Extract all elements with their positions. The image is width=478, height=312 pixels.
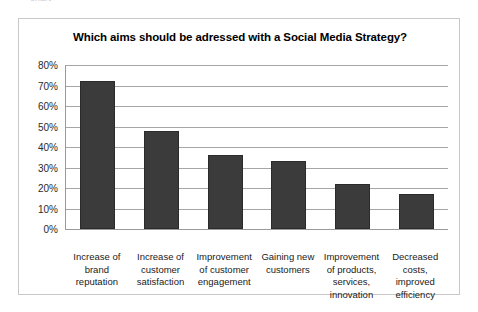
x-axis-category-label: Decreased costs, improved efficiency xyxy=(383,251,447,301)
y-axis-tick: 60% xyxy=(38,101,58,112)
gridline xyxy=(66,229,448,230)
y-axis-tick: 40% xyxy=(38,142,58,153)
y-axis-tick-labels: 80%70%60%50%40%30%20%10%0% xyxy=(19,65,61,229)
chart-screenshot: chart Which aims should be adressed with… xyxy=(0,0,478,312)
y-axis-tick: 80% xyxy=(38,60,58,71)
y-axis-tick: 30% xyxy=(38,162,58,173)
bar[interactable] xyxy=(335,184,370,229)
x-axis-category-label: Improvement of customer engagement xyxy=(192,251,256,301)
x-axis-category-label: Increase of customer satisfaction xyxy=(129,251,193,301)
y-axis-tick: 20% xyxy=(38,183,58,194)
chart-title: Which aims should be adressed with a Soc… xyxy=(19,31,461,43)
plot-wrapper: 80%70%60%50%40%30%20%10%0% xyxy=(19,65,461,247)
y-axis-tick: 10% xyxy=(38,203,58,214)
y-axis-tick: 70% xyxy=(38,80,58,91)
bar[interactable] xyxy=(208,155,243,229)
bar-series xyxy=(66,65,448,229)
bar-slot xyxy=(66,65,130,229)
bar[interactable] xyxy=(399,194,434,229)
bar-slot xyxy=(130,65,194,229)
clipped-caption-label: chart xyxy=(0,0,51,4)
y-axis-tick: 50% xyxy=(38,121,58,132)
x-axis-category-labels: Increase of brand reputationIncrease of … xyxy=(65,251,447,301)
x-axis-category-label: Increase of brand reputation xyxy=(65,251,129,301)
bar[interactable] xyxy=(271,161,306,229)
x-axis-category-label: Improvement of products, services, innov… xyxy=(320,251,384,301)
bar-slot xyxy=(321,65,385,229)
bar[interactable] xyxy=(80,81,115,229)
plot-area xyxy=(65,65,448,230)
y-axis-tick: 0% xyxy=(44,224,58,235)
clipped-caption-text: chart xyxy=(0,0,478,11)
x-axis-category-label: Gaining new customers xyxy=(256,251,320,301)
bar-slot xyxy=(384,65,448,229)
chart-frame: Which aims should be adressed with a Soc… xyxy=(18,18,460,295)
bar-slot xyxy=(257,65,321,229)
bar[interactable] xyxy=(144,131,179,229)
bar-slot xyxy=(193,65,257,229)
